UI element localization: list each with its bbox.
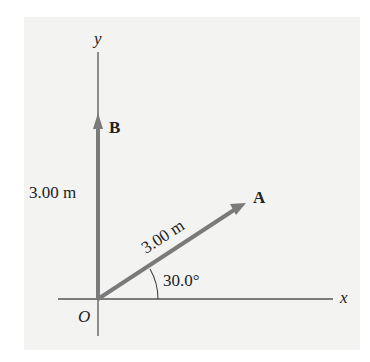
vector-b-magnitude-label: 3.00 m <box>29 183 76 202</box>
angle-label: 30.0° <box>163 271 200 290</box>
origin-label: O <box>78 307 90 326</box>
vector-a-magnitude-label: 3.00 m <box>138 216 188 258</box>
vector-diagram: y x O B A 3.00 m 3.00 m 30.0° <box>0 0 370 362</box>
vector-b <box>93 113 103 299</box>
y-axis-label: y <box>92 29 102 48</box>
vector-a-label: A <box>253 188 266 207</box>
angle-arc <box>150 269 158 299</box>
vector-b-arrowhead-icon <box>93 113 103 129</box>
vector-b-label: B <box>109 118 120 137</box>
x-axis-label: x <box>339 288 348 307</box>
